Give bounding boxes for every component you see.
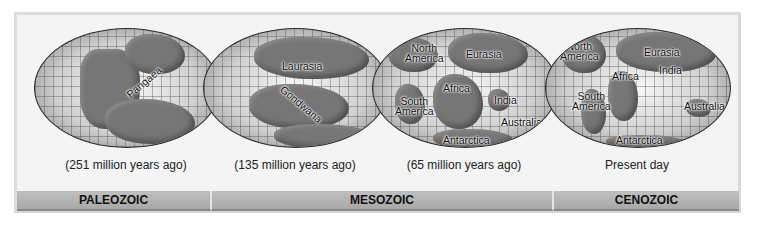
label-laurasia: Laurasia [282, 61, 322, 71]
caption-251-mya: (251 million years ago) [31, 158, 221, 172]
label-north-america: North America [560, 41, 599, 61]
label-eurasia: Eurasia [466, 49, 502, 59]
landmass [274, 124, 374, 148]
label-africa: Africa [443, 83, 470, 93]
label-australia: Australia [501, 117, 542, 127]
era-paleozoic: PALEOZOIC [17, 191, 212, 211]
label-australia: Australia [684, 101, 725, 111]
landmass [254, 37, 369, 79]
label-antarctica: Antarctica [443, 135, 490, 145]
landmass [105, 99, 195, 144]
mesozoic-late-globe: North America Eurasia Africa South Ameri… [372, 28, 558, 148]
label-north-america: North America [405, 43, 444, 63]
caption-65-mya: (65 million years ago) [369, 158, 559, 172]
label-eurasia: Eurasia [644, 47, 680, 57]
present-globe: North America Eurasia Africa India South… [545, 28, 731, 148]
label-africa: Africa [612, 71, 639, 81]
era-timeline-bar: PALEOZOIC MESOZOIC CENOZOIC [17, 191, 739, 211]
caption-present-day: Present day [542, 158, 732, 172]
era-mesozoic: MESOZOIC [212, 191, 554, 211]
label-antarctica: Antarctica [616, 135, 663, 145]
label-south-america: South America [572, 91, 611, 111]
label-south-america: South America [395, 96, 434, 116]
mesozoic-early-globe: Laurasia Gondwana [203, 28, 389, 148]
paleozoic-globe: Pangaea [34, 28, 220, 148]
era-cenozoic: CENOZOIC [554, 191, 739, 211]
label-india: India [659, 65, 682, 75]
label-india: India [494, 95, 517, 105]
caption-135-mya: (135 million years ago) [200, 158, 390, 172]
